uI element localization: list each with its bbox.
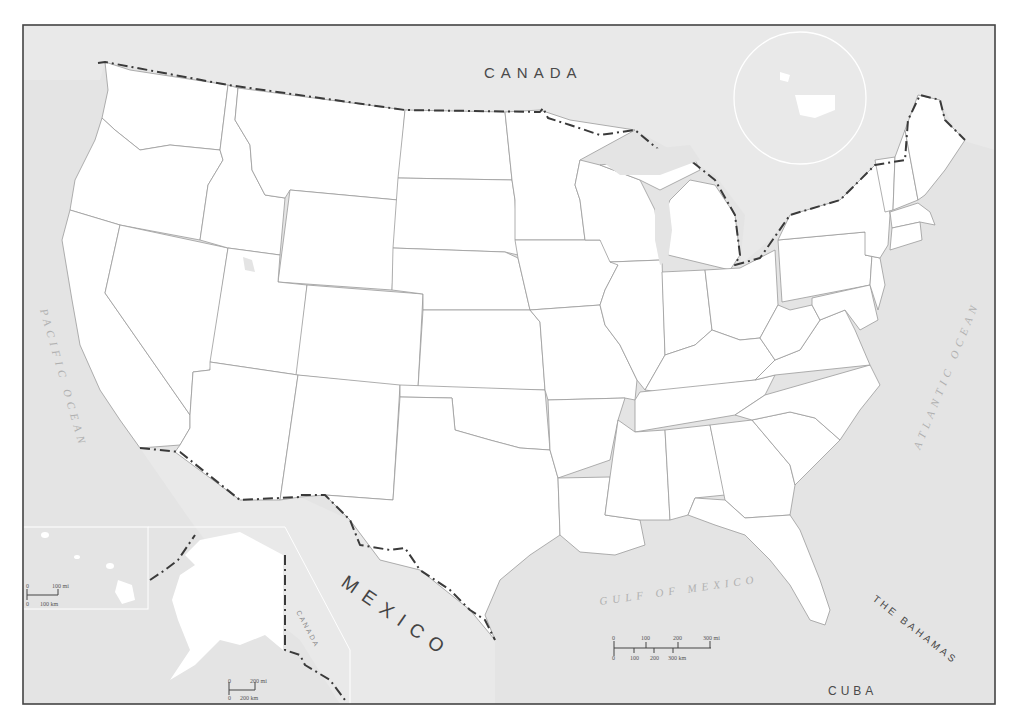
svg-text:200 mi: 200 mi [250,678,267,684]
state-kansas[interactable] [418,310,545,390]
svg-text:300 km: 300 km [668,655,687,661]
state-colorado[interactable] [296,285,423,388]
svg-text:0: 0 [612,655,615,661]
svg-text:0: 0 [26,601,29,607]
svg-text:200: 200 [650,655,659,661]
svg-text:100: 100 [641,635,650,641]
us-map: 0 100 mi 0 100 km CANADA 0 200 mi 0 200 … [0,0,1016,728]
svg-text:0: 0 [26,583,29,589]
svg-text:200 km: 200 km [240,695,259,701]
state-wyoming[interactable] [278,190,398,290]
svg-text:0: 0 [612,635,615,641]
state-north-dakota[interactable] [398,110,512,180]
state-new-mexico[interactable] [280,375,400,500]
svg-text:0: 0 [228,678,231,684]
state-south-dakota[interactable] [393,178,518,255]
svg-text:200: 200 [673,635,682,641]
label-canada: CANADA [484,64,583,81]
svg-text:0: 0 [228,695,231,701]
label-cuba: CUBA [828,684,877,698]
svg-text:100 km: 100 km [40,601,59,607]
svg-text:300 mi: 300 mi [703,635,720,641]
svg-text:100 mi: 100 mi [52,583,69,589]
svg-text:100: 100 [630,655,639,661]
